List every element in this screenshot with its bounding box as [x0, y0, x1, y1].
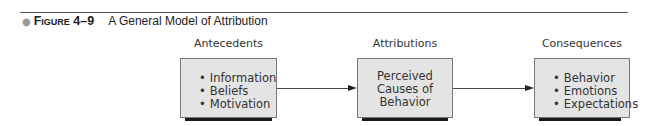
attributions-text: Perceived Causes of Behavior	[358, 70, 452, 109]
attributions-box-shadow	[362, 118, 448, 121]
header-rule	[20, 12, 628, 13]
consequences-list: Behavior Emotions Expectations	[553, 72, 638, 111]
list-item: Expectations	[553, 98, 638, 111]
arrowhead-icon	[348, 85, 357, 91]
arrowhead-icon	[525, 85, 534, 91]
attributions-line: Behavior	[358, 96, 452, 109]
arrow-line-1	[277, 88, 349, 89]
antecedents-box-shadow	[185, 118, 272, 121]
figure-title: A General Model of Attribution	[108, 14, 267, 28]
antecedents-box: Information Beliefs Motivation	[180, 58, 277, 118]
caption-bullet-icon: ●	[22, 16, 31, 27]
consequences-box: Behavior Emotions Expectations	[534, 58, 630, 118]
antecedents-label: Antecedents	[180, 37, 277, 50]
list-item: Motivation	[199, 98, 276, 111]
figure-caption: ●Figure 4–9A General Model of Attributio…	[22, 14, 268, 29]
attributions-box: Perceived Causes of Behavior	[357, 58, 453, 118]
consequences-box-shadow	[539, 118, 621, 121]
attributions-label: Attributions	[357, 37, 453, 50]
antecedents-list: Information Beliefs Motivation	[199, 72, 276, 111]
figure-number: Figure 4–9	[34, 14, 94, 28]
consequences-label: Consequences	[534, 37, 630, 50]
arrow-line-2	[453, 88, 526, 89]
